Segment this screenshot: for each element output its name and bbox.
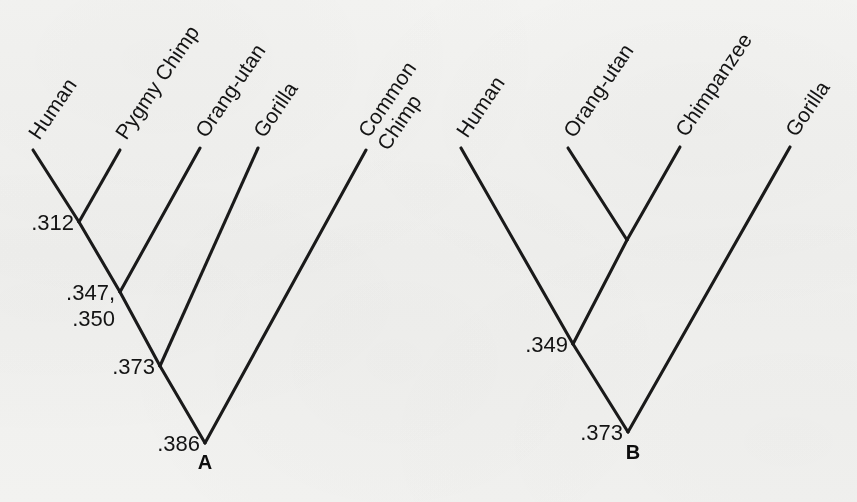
node-value-hominoid-node: .349 [525, 332, 568, 357]
tip-label-common-chimp: CommonChimp [353, 57, 439, 154]
panel-letter-a: A [198, 451, 212, 473]
node-value-root-node: .386 [157, 431, 200, 456]
tip-label-orang-utan: Orang-utan [559, 39, 638, 141]
panel-b: HumanOrang-utanChimpanzeeGorilla.349.373… [452, 29, 835, 463]
edge-orang-utan [120, 148, 200, 292]
edge-pygmy-chimp [79, 150, 120, 222]
tip-label-text: Human [452, 72, 509, 141]
edge-orang-utan [568, 148, 627, 240]
tip-label-text: Orang-utan [559, 39, 638, 141]
tip-label-chimpanzee: Chimpanzee [671, 29, 757, 140]
tip-label-text: Pygmy Chimp [111, 21, 204, 143]
edge-orangchimp-349 [573, 240, 627, 344]
tip-label-text: Human [24, 74, 81, 143]
edge-gorilla [160, 148, 258, 366]
node-value-hominine-node: .347, [66, 280, 115, 305]
edge-chimpanzee [627, 147, 680, 240]
phylogenetic-trees-svg: HumanPygmy ChimpOrang-utanGorillaCommonC… [0, 0, 857, 502]
edge-gorilla [628, 147, 790, 432]
edge-common-chimp [205, 150, 366, 443]
panel-a: HumanPygmy ChimpOrang-utanGorillaCommonC… [24, 21, 440, 473]
tip-label-text: Gorilla [781, 76, 835, 140]
edge-human [461, 148, 573, 344]
tip-label-text: Gorilla [249, 77, 303, 141]
node-value-human-pygmy-chimp-node: .312 [31, 210, 74, 235]
tip-label-gorilla: Gorilla [781, 76, 835, 140]
panel-letter-b: B [626, 441, 640, 463]
node-value-hominine-node: .350 [72, 306, 115, 331]
node-value-root-node: .373 [580, 420, 623, 445]
figure-page: HumanPygmy ChimpOrang-utanGorillaCommonC… [0, 0, 857, 502]
tip-label-human: Human [24, 74, 81, 143]
tip-label-human: Human [452, 72, 509, 141]
node-value-great-ape-node: .373 [112, 354, 155, 379]
tip-label-pygmy-chimp: Pygmy Chimp [111, 21, 204, 143]
edge-349-to-root [573, 344, 628, 432]
tip-label-gorilla: Gorilla [249, 77, 303, 141]
tip-label-text: Chimpanzee [671, 29, 757, 140]
